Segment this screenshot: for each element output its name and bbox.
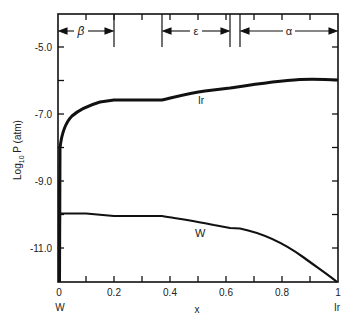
ytick-label: -11.0 [30,243,52,254]
ytick-label: -5.0 [35,42,53,53]
y-ticks [58,47,338,248]
phase-label-epsilon: ε [194,25,199,37]
x-axis-label: x [195,304,200,315]
curve-label-ir: Ir [198,95,205,106]
ytick-label: -7.0 [35,109,53,120]
phase-label-beta: β [77,24,85,38]
xtick-label: 0 [56,287,62,298]
xtick-label: 0.2 [107,287,121,298]
x-ticks-bottom [86,276,310,282]
plot-frame [58,14,338,282]
phase-pressure-chart: β ε α Ir W -5.0 -7.0 -9.0 -11.0 0 0.2 0.… [0,0,351,324]
curve-label-w: W [195,227,206,239]
xtick-label: 0.8 [275,287,289,298]
w-curve [60,214,338,283]
xtick-label: 0.4 [163,287,177,298]
phase-label-alpha: α [286,25,293,37]
xtick-label: 0.6 [219,287,233,298]
x-left-end-label: W [55,302,65,313]
svg-text:Log10 P (atm): Log10 P (atm) [12,120,25,180]
y-axis-label: Log10 P (atm) [12,120,25,180]
xtick-label: 1 [335,287,341,298]
ytick-label: -9.0 [35,176,53,187]
x-ticks-top [86,14,310,20]
x-right-end-label: Ir [334,302,341,313]
